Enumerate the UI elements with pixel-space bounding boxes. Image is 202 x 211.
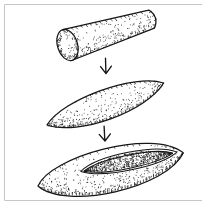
down-arrow-icon [101, 58, 112, 73]
hollowed-trough-illustration [33, 132, 188, 208]
shaped-ellipsoid-illustration [42, 70, 169, 140]
illustration-page [0, 0, 202, 211]
down-arrow-icon [99, 126, 110, 141]
log-cylinder-illustration [53, 3, 160, 64]
process-diagram [0, 0, 202, 211]
